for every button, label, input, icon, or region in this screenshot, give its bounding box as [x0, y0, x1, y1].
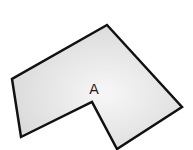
diagram-canvas: A [0, 0, 193, 150]
shape-label: A [89, 81, 99, 97]
